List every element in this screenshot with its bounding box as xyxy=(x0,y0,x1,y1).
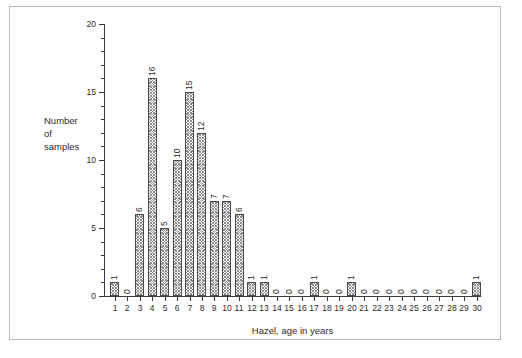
bar-value-label: 0 xyxy=(372,289,381,294)
y-axis-tick-label: 0 xyxy=(68,292,96,300)
bar xyxy=(173,160,182,296)
x-axis-tick xyxy=(389,297,390,301)
bar-value-label: 0 xyxy=(422,289,431,294)
x-axis-tick xyxy=(402,297,403,301)
y-axis-major-tick xyxy=(99,24,104,25)
x-axis-tick xyxy=(252,297,253,301)
bar xyxy=(148,78,157,296)
x-axis-tick xyxy=(115,297,116,301)
x-axis-tick xyxy=(239,297,240,301)
x-axis-tick xyxy=(277,297,278,301)
bar-value-label: 7 xyxy=(222,194,231,199)
y-axis-major-tick xyxy=(99,160,104,161)
x-axis-line xyxy=(104,296,481,297)
y-axis-tick-label: 10 xyxy=(68,156,96,164)
bar-value-label: 0 xyxy=(447,289,456,294)
y-axis-minor-tick xyxy=(101,51,104,52)
y-axis-tick-label: 20 xyxy=(68,20,96,28)
y-axis-major-tick xyxy=(99,228,104,229)
x-axis-title: Hazel, age in years xyxy=(104,325,481,336)
y-axis-minor-tick xyxy=(101,201,104,202)
x-axis-tick xyxy=(339,297,340,301)
bar-value-label: 10 xyxy=(173,149,182,158)
x-axis-tick xyxy=(264,297,265,301)
bar xyxy=(210,201,219,296)
y-axis-major-tick xyxy=(99,296,104,297)
bar-value-label: 1 xyxy=(110,276,119,281)
bar-value-label: 0 xyxy=(385,289,394,294)
y-axis-minor-tick xyxy=(101,38,104,39)
bar-value-label: 7 xyxy=(210,194,219,199)
y-axis-title-line: Number xyxy=(44,114,100,127)
bar-value-label: 5 xyxy=(160,221,169,226)
y-axis-minor-tick xyxy=(101,255,104,256)
bar xyxy=(247,282,256,296)
x-axis-tick xyxy=(127,297,128,301)
bar xyxy=(310,282,319,296)
x-axis-tick xyxy=(289,297,290,301)
x-axis-tick xyxy=(202,297,203,301)
y-axis-title: Numberofsamples xyxy=(44,114,100,153)
x-axis-tick xyxy=(464,297,465,301)
bar xyxy=(472,282,481,296)
y-axis-title-line: samples xyxy=(44,140,100,153)
bar-value-label: 15 xyxy=(185,81,194,90)
bar-value-label: 0 xyxy=(335,289,344,294)
y-axis-minor-tick xyxy=(101,65,104,66)
x-axis-tick xyxy=(140,297,141,301)
x-axis-tick xyxy=(227,297,228,301)
y-axis-minor-tick xyxy=(101,214,104,215)
bar-value-label: 0 xyxy=(360,289,369,294)
y-axis-minor-tick xyxy=(101,78,104,79)
x-axis-tick xyxy=(439,297,440,301)
bar xyxy=(160,228,169,296)
bar-value-label: 0 xyxy=(397,289,406,294)
x-axis-tick xyxy=(477,297,478,301)
y-axis-minor-tick xyxy=(101,174,104,175)
bar xyxy=(185,92,194,296)
y-axis-minor-tick xyxy=(101,187,104,188)
x-axis-tick xyxy=(414,297,415,301)
bar-value-label: 0 xyxy=(123,289,132,294)
bar-value-label: 0 xyxy=(297,289,306,294)
bar-value-label: 0 xyxy=(460,289,469,294)
y-axis-minor-tick xyxy=(101,106,104,107)
bar-value-label: 1 xyxy=(347,276,356,281)
x-axis-tick xyxy=(352,297,353,301)
x-axis-tick xyxy=(452,297,453,301)
bar-value-label: 0 xyxy=(322,289,331,294)
x-axis-tick xyxy=(427,297,428,301)
y-axis-tick-label: 5 xyxy=(68,224,96,232)
bar xyxy=(260,282,269,296)
bar-value-label: 0 xyxy=(435,289,444,294)
bar xyxy=(135,214,144,296)
bar xyxy=(222,201,231,296)
y-axis-title-line: of xyxy=(44,127,100,140)
bar xyxy=(197,133,206,296)
bar-value-label: 1 xyxy=(260,276,269,281)
y-axis-line xyxy=(104,24,105,297)
x-axis-tick xyxy=(152,297,153,301)
x-axis-tick-label: 30 xyxy=(468,303,486,313)
x-axis-tick xyxy=(165,297,166,301)
y-axis-tick-label: 15 xyxy=(68,88,96,96)
x-axis-tick xyxy=(314,297,315,301)
x-axis-tick xyxy=(177,297,178,301)
y-axis-minor-tick xyxy=(101,282,104,283)
y-axis-major-tick xyxy=(99,92,104,93)
x-axis-tick xyxy=(377,297,378,301)
bar-value-label: 6 xyxy=(135,208,144,213)
bar-value-label: 1 xyxy=(247,276,256,281)
bar xyxy=(110,282,119,296)
bar-chart: 05101520 1234567891011121314151617181920… xyxy=(0,0,522,358)
bar-value-label: 1 xyxy=(310,276,319,281)
bar-value-label: 6 xyxy=(235,208,244,213)
x-axis-tick xyxy=(327,297,328,301)
bar xyxy=(235,214,244,296)
y-axis-minor-tick xyxy=(101,146,104,147)
y-axis-minor-tick xyxy=(101,242,104,243)
bar-value-label: 0 xyxy=(285,289,294,294)
x-axis-tick xyxy=(364,297,365,301)
bar-value-label: 16 xyxy=(148,67,157,76)
bar xyxy=(347,282,356,296)
